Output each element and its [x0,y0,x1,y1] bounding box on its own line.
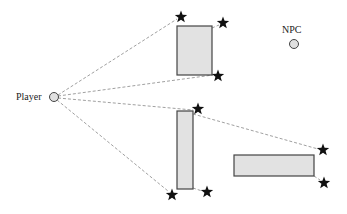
obstacle-1 [177,26,212,75]
star-icon [317,144,329,156]
sight-line [314,176,320,180]
sight-line [58,75,213,96]
star-icon [192,103,204,115]
star-icon [212,70,224,82]
star-icon [201,186,213,198]
sight-line [193,114,318,149]
sight-line [58,98,193,110]
obstacle-2 [177,111,193,189]
npc-circle [290,40,299,49]
npc-label: NPC [282,25,301,35]
star-icon [175,11,187,23]
sight-line [193,188,202,191]
player-circle [50,93,59,102]
obstacle-3 [234,155,314,176]
sight-line [58,19,177,95]
sight-line [212,25,219,28]
player-label: Player [16,92,42,102]
star-icon [318,177,330,189]
agents [50,40,299,102]
sight-line [57,100,168,191]
star-icon [217,17,229,29]
